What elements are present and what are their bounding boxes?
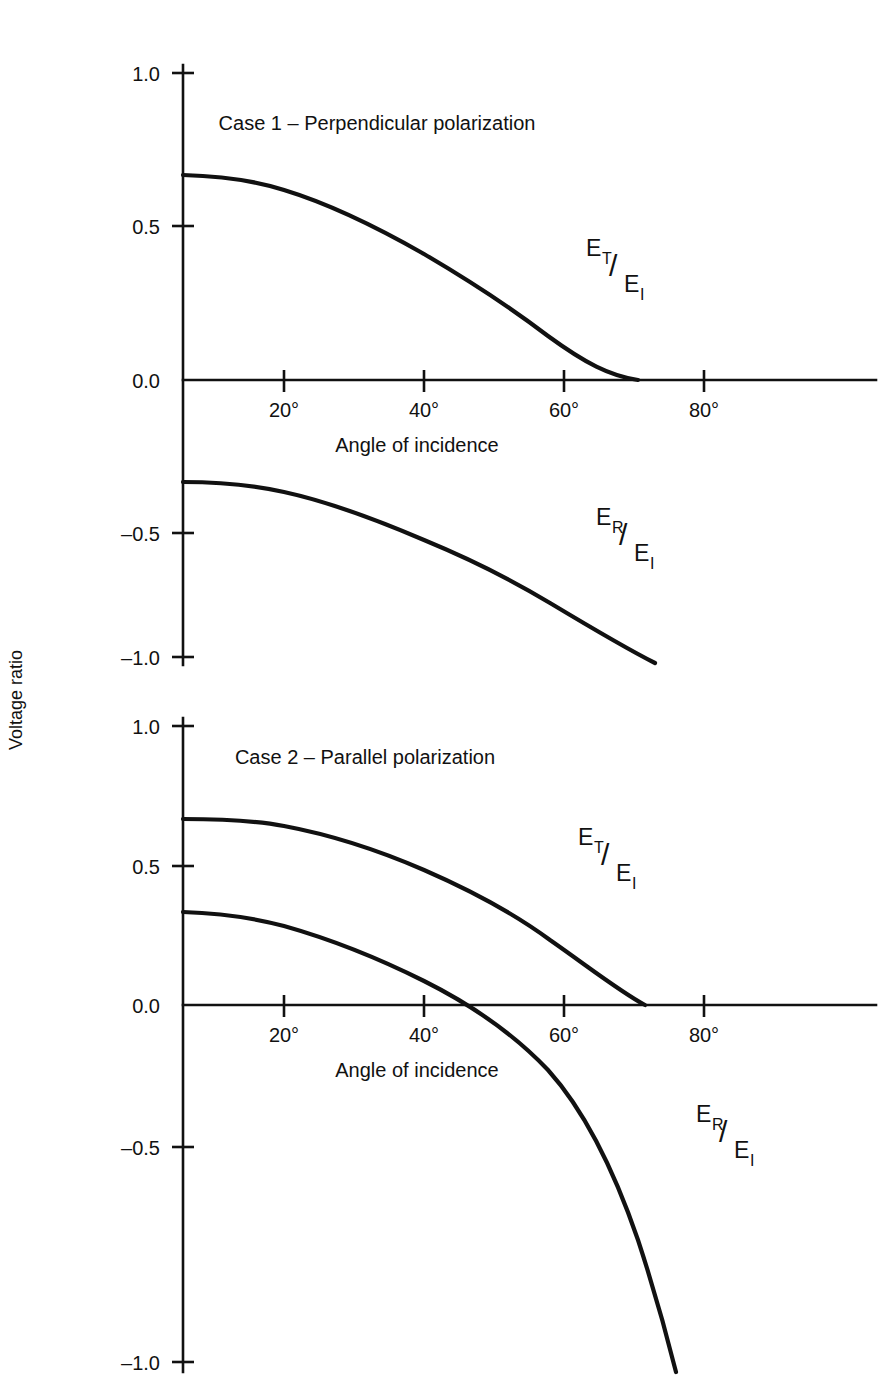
case1-ylabel-4: –0.5 <box>121 523 160 545</box>
case2-curve-label-transmitted: E T / E I <box>578 824 636 892</box>
case2-label-ET-base: E <box>578 824 593 850</box>
case2-xlabel-80: 80° <box>689 1024 719 1046</box>
case1-curve-label-transmitted: E T / E I <box>586 235 644 303</box>
case1-ylabel-1: 1.0 <box>132 63 160 85</box>
case1-label-EI-base: E <box>624 271 639 297</box>
case2-label-slash-2: / <box>719 1115 728 1148</box>
panel-case2: 1.0 0.5 0.0 –0.5 –1.0 20° 40° 60° 80° Ca… <box>121 716 876 1374</box>
case2-label-ERI-sub: I <box>750 1152 754 1169</box>
case1-xlabel-80: 80° <box>689 399 719 421</box>
case1-xlabel-40: 40° <box>409 399 439 421</box>
fresnel-coefficients-figure: Voltage ratio 1.0 0.5 0.0 –0.5 –1.0 <box>0 0 896 1400</box>
case2-ylabel-5: –1.0 <box>121 1352 160 1374</box>
case2-x-axis-title: Angle of incidence <box>335 1059 498 1081</box>
case2-curve-label-reflected: E R / E I <box>696 1101 754 1169</box>
case2-ylabel-3: 0.0 <box>132 995 160 1017</box>
case1-label-ERI-base: E <box>634 540 649 566</box>
case1-ylabel-2: 0.5 <box>132 216 160 238</box>
case2-label-EI-sub: I <box>632 875 636 892</box>
panel-case1: 1.0 0.5 0.0 –0.5 –1.0 20° 40° 60° 80° Ca… <box>121 63 876 669</box>
case1-x-axis-title: Angle of incidence <box>335 434 498 456</box>
case1-label-ER-base: E <box>596 504 611 530</box>
case2-label-EI-base: E <box>616 860 631 886</box>
case1-label-slash-2: / <box>619 518 628 551</box>
case1-label-EI-sub: I <box>640 286 644 303</box>
case2-label-ER-base: E <box>696 1101 711 1127</box>
case2-ylabel-4: –0.5 <box>121 1137 160 1159</box>
figure-root: Voltage ratio 1.0 0.5 0.0 –0.5 –1.0 <box>0 0 896 1400</box>
case2-label-ERI-base: E <box>734 1137 749 1163</box>
case2-label-slash-1: / <box>601 838 610 871</box>
case1-curve-label-reflected: E R / E I <box>596 504 654 572</box>
case1-curve-reflected <box>183 482 655 663</box>
y-axis-caption: Voltage ratio <box>6 650 26 750</box>
case1-ylabel-3: 0.0 <box>132 370 160 392</box>
case2-curve-reflected <box>183 912 676 1372</box>
case1-ylabel-5: –1.0 <box>121 647 160 669</box>
case1-label-slash-1: / <box>609 249 618 282</box>
case1-label-ERI-sub: I <box>650 555 654 572</box>
case2-xlabel-40: 40° <box>409 1024 439 1046</box>
case1-title: Case 1 – Perpendicular polarization <box>219 112 536 134</box>
case1-xlabel-20: 20° <box>269 399 299 421</box>
case2-title: Case 2 – Parallel polarization <box>235 746 495 768</box>
y-axis-caption-text: Voltage ratio <box>6 650 26 750</box>
case2-ylabel-2: 0.5 <box>132 856 160 878</box>
case1-label-ET-base: E <box>586 235 601 261</box>
case1-xlabel-60: 60° <box>549 399 579 421</box>
case1-curve-transmitted <box>183 175 638 380</box>
case2-ylabel-1: 1.0 <box>132 716 160 738</box>
case2-xlabel-60: 60° <box>549 1024 579 1046</box>
case2-xlabel-20: 20° <box>269 1024 299 1046</box>
